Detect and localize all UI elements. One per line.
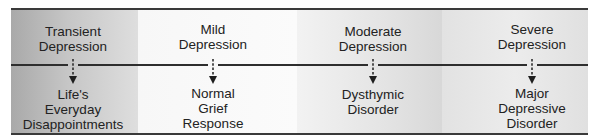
depression-continuum-diagram: Transient Depression Life's Everyday Dis… [11, 8, 588, 134]
severity-line: Depression [313, 39, 433, 54]
condition-label: Normal Grief Response [153, 86, 273, 131]
condition-line: Response [153, 116, 273, 131]
severity-line: Severe [472, 22, 592, 37]
stage-transient: Transient Depression Life's Everyday Dis… [11, 8, 135, 134]
severity-line: Depression [472, 37, 592, 52]
condition-label: Major Depressive Disorder [472, 86, 592, 131]
dashed-arrow-down-icon [68, 59, 78, 85]
condition-line: Disorder [313, 102, 433, 117]
condition-line: Disorder [472, 116, 592, 131]
severity-line: Transient [11, 24, 135, 39]
condition-label: Dysthymic Disorder [313, 87, 433, 117]
severity-line: Mild [153, 22, 273, 37]
severity-label: Severe Depression [472, 22, 592, 52]
severity-line: Moderate [313, 24, 433, 39]
condition-line: Disappointments [11, 117, 135, 132]
dashed-arrow-down-icon [527, 59, 537, 85]
severity-line: Depression [153, 37, 273, 52]
severity-label: Transient Depression [11, 24, 135, 54]
condition-line: Depressive [472, 101, 592, 116]
condition-line: Dysthymic [313, 87, 433, 102]
stage-severe: Severe Depression Major Depressive Disor… [472, 8, 592, 134]
severity-label: Moderate Depression [313, 24, 433, 54]
severity-label: Mild Depression [153, 22, 273, 52]
dashed-arrow-down-icon [208, 59, 218, 85]
condition-line: Life's [11, 87, 135, 102]
condition-line: Major [472, 86, 592, 101]
stage-mild: Mild Depression Normal Grief Response [153, 8, 273, 134]
condition-label: Life's Everyday Disappointments [11, 87, 135, 132]
dashed-arrow-down-icon [368, 59, 378, 85]
condition-line: Everyday [11, 102, 135, 117]
stage-moderate: Moderate Depression Dysthymic Disorder [313, 8, 433, 134]
condition-line: Normal [153, 86, 273, 101]
condition-line: Grief [153, 101, 273, 116]
severity-line: Depression [11, 39, 135, 54]
